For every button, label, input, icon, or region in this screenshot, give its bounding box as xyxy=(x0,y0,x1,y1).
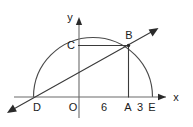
point-label-a: A xyxy=(124,101,132,113)
y-axis-arrowhead xyxy=(76,17,82,25)
point-label-c: C xyxy=(67,39,75,51)
point-label-e: E xyxy=(148,101,155,113)
x-axis-arrowhead xyxy=(158,94,166,101)
y-axis-label: y xyxy=(67,11,73,23)
segment-length-label-ae: 3 xyxy=(137,101,143,113)
geometry-canvas: y x D O A E B C 6 3 xyxy=(0,0,193,127)
point-label-o: O xyxy=(69,101,78,113)
ray-lower-arrowhead xyxy=(7,105,17,114)
point-b-marker xyxy=(127,44,130,47)
x-axis-label: x xyxy=(173,91,179,103)
point-label-d: D xyxy=(33,101,41,113)
ray-d-through-b xyxy=(11,31,154,111)
segment-length-label-oa: 6 xyxy=(101,101,107,113)
geometry-figure: y x D O A E B C 6 3 xyxy=(0,0,193,127)
point-label-b: B xyxy=(125,29,132,41)
